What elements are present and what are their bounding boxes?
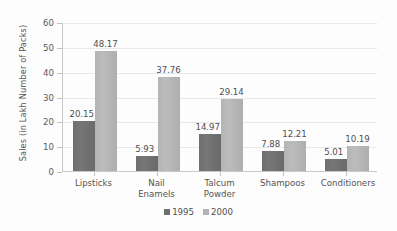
category-label-talcum-powder-line1: Talcum	[188, 178, 251, 189]
x-tick-mark-4	[346, 172, 347, 176]
bar-group-conditioners: 5.01 10.19	[315, 23, 378, 171]
bar-group-talcum-powder: 14.97 29.14	[189, 23, 252, 171]
x-tick-mark-3	[283, 172, 284, 176]
category-label-talcum-powder: Talcum Powder	[188, 178, 251, 199]
y-tick-label-40: 40	[8, 68, 54, 78]
bar-value-shampoos-2000: 12.21	[282, 129, 307, 139]
bar-value-conditioners-2000: 10.19	[345, 134, 370, 144]
legend-label-1995: 1995	[172, 207, 194, 217]
bar-value-talcum-powder-1995: 14.97	[195, 122, 220, 132]
category-label-lipsticks: Lipsticks	[62, 178, 125, 189]
y-tick-label-0: 0	[8, 167, 54, 177]
bar-nail-enamels-2000[interactable]: 37.76	[158, 77, 180, 171]
x-tick-mark-0	[94, 172, 95, 176]
category-label-shampoos-line1: Shampoos	[251, 178, 314, 189]
bar-shampoos-2000[interactable]: 12.21	[284, 141, 306, 171]
bar-talcum-powder-2000[interactable]: 29.14	[221, 99, 243, 171]
bar-conditioners-1995[interactable]: 5.01	[325, 159, 347, 171]
x-tick-mark-2	[220, 172, 221, 176]
category-label-nail-enamels-line1: Nail	[125, 178, 188, 189]
legend-label-2000: 2000	[211, 207, 233, 217]
bar-value-conditioners-1995: 5.01	[324, 147, 343, 157]
legend-swatch-2000-icon	[203, 209, 209, 215]
y-tick-label-60: 60	[8, 18, 54, 28]
x-tick-mark-1	[157, 172, 158, 176]
legend-item-1995[interactable]: 1995	[164, 207, 194, 217]
legend-item-2000[interactable]: 2000	[203, 207, 233, 217]
bar-value-nail-enamels-1995: 5.93	[135, 144, 154, 154]
bar-talcum-powder-1995[interactable]: 14.97	[199, 134, 221, 171]
bar-group-nail-enamels: 5.93 37.76	[126, 23, 189, 171]
category-label-conditioners: Conditioners	[312, 178, 384, 189]
y-tick-label-50: 50	[8, 43, 54, 53]
category-label-conditioners-line1: Conditioners	[312, 178, 384, 189]
category-label-nail-enamels: Nail Enamels	[125, 178, 188, 199]
y-tick-mark-0	[57, 172, 62, 173]
chart-legend: 1995 2000	[0, 207, 397, 217]
bar-conditioners-2000[interactable]: 10.19	[347, 146, 369, 171]
bar-shampoos-1995[interactable]: 7.88	[262, 151, 284, 171]
y-tick-label-20: 20	[8, 117, 54, 127]
bar-value-shampoos-1995: 7.88	[261, 139, 280, 149]
bar-lipsticks-2000[interactable]: 48.17	[95, 51, 117, 171]
bar-value-talcum-powder-2000: 29.14	[219, 87, 244, 97]
category-label-talcum-powder-line2: Powder	[188, 189, 251, 200]
y-tick-label-30: 30	[8, 93, 54, 103]
bar-chart: Sales (in Lakh Number of Packs) 60 50 40…	[0, 0, 397, 231]
bar-value-lipsticks-2000: 48.17	[93, 39, 118, 49]
bar-lipsticks-1995[interactable]: 20.15	[73, 121, 95, 171]
plot-area: 20.15 48.17 5.93 37.76 14.97	[62, 23, 377, 172]
bar-value-nail-enamels-2000: 37.76	[156, 65, 181, 75]
legend-swatch-1995-icon	[164, 209, 170, 215]
category-label-nail-enamels-line2: Enamels	[125, 189, 188, 200]
bar-value-lipsticks-1995: 20.15	[69, 109, 94, 119]
bar-nail-enamels-1995[interactable]: 5.93	[136, 156, 158, 171]
bar-group-shampoos: 7.88 12.21	[252, 23, 315, 171]
y-tick-label-10: 10	[8, 142, 54, 152]
category-label-lipsticks-line1: Lipsticks	[62, 178, 125, 189]
bar-group-lipsticks: 20.15 48.17	[63, 23, 126, 171]
category-label-shampoos: Shampoos	[251, 178, 314, 189]
